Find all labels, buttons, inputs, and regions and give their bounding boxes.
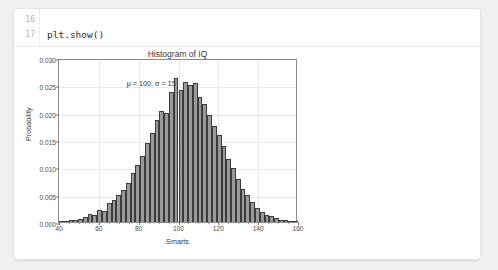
x-axis-tick-label: 60 [95, 225, 102, 232]
x-axis-tick-mark [179, 222, 180, 225]
x-axis-tick-label: 40 [55, 225, 62, 232]
x-axis-minor-tick [129, 222, 130, 224]
x-axis-minor-tick [79, 222, 80, 224]
x-axis-minor-tick [248, 222, 249, 224]
histogram-bars [59, 60, 296, 222]
code-lines[interactable]: plt.show() [39, 9, 480, 46]
x-axis-minor-tick [119, 222, 120, 224]
x-axis-minor-tick [228, 222, 229, 224]
notebook-cell-card: 16 17 plt.show() Histogram of IQ Probabi… [13, 8, 481, 260]
line-number-gutter: 16 17 [14, 9, 40, 46]
code-line[interactable]: plt.show() [39, 27, 480, 42]
x-axis-tick-mark [258, 222, 259, 225]
x-axis-minor-tick [198, 222, 199, 224]
x-axis-tick-mark [59, 222, 60, 225]
x-axis-tick-mark [139, 222, 140, 225]
x-axis-tick-label: 80 [135, 225, 142, 232]
x-axis-minor-tick [208, 222, 209, 224]
x-axis-minor-tick [89, 222, 90, 224]
x-axis-label: Smarts [58, 237, 297, 246]
y-axis-tick-mark [56, 196, 59, 197]
x-axis-minor-tick [169, 222, 170, 224]
x-axis-minor-tick [268, 222, 269, 224]
x-axis-minor-tick [278, 222, 279, 224]
y-axis-label: Probability [24, 107, 33, 141]
y-axis-tick-label: 0.025 [39, 84, 56, 91]
x-axis-tick-label: 120 [213, 225, 224, 232]
y-axis-tick-mark [56, 114, 59, 115]
y-axis-tick-label: 0.000 [39, 221, 56, 228]
y-axis-tick-label: 0.010 [39, 166, 56, 173]
y-axis-tick-label: 0.005 [39, 193, 56, 200]
x-axis-tick-label: 160 [292, 225, 303, 232]
matplotlib-figure: Histogram of IQ Probability Smarts 0.000… [14, 47, 480, 259]
chart-title: Histogram of IQ [58, 49, 297, 59]
x-axis-tick-label: 100 [173, 225, 184, 232]
y-axis-tick-mark [56, 169, 59, 170]
y-axis-tick-label: 0.015 [39, 139, 56, 146]
y-axis-tick-label: 0.020 [39, 111, 56, 118]
line-number: 16 [14, 12, 39, 27]
y-axis-tick-mark [56, 142, 59, 143]
screen-root: 16 17 plt.show() Histogram of IQ Probabi… [0, 0, 498, 270]
plot-area: 0.0000.0050.0100.0150.0200.0250.03040608… [58, 59, 297, 223]
y-axis-tick-mark [56, 87, 59, 88]
line-number: 17 [14, 27, 39, 42]
code-line[interactable] [39, 12, 480, 27]
x-axis-minor-tick [288, 222, 289, 224]
x-axis-tick-mark [218, 222, 219, 225]
x-axis-tick-mark [99, 222, 100, 225]
x-axis-minor-tick [149, 222, 150, 224]
x-axis-minor-tick [159, 222, 160, 224]
x-axis-minor-tick [69, 222, 70, 224]
code-editor[interactable]: 16 17 plt.show() [14, 9, 480, 47]
x-axis-tick-label: 140 [253, 225, 264, 232]
x-axis-tick-mark [298, 222, 299, 225]
y-axis-tick-label: 0.030 [39, 57, 56, 64]
x-axis-minor-tick [188, 222, 189, 224]
y-axis-tick-mark [56, 60, 59, 61]
x-axis-minor-tick [109, 222, 110, 224]
chart-annotation: μ = 100, σ = 15 [127, 79, 176, 88]
cell-output: Histogram of IQ Probability Smarts 0.000… [14, 47, 480, 259]
x-axis-minor-tick [238, 222, 239, 224]
